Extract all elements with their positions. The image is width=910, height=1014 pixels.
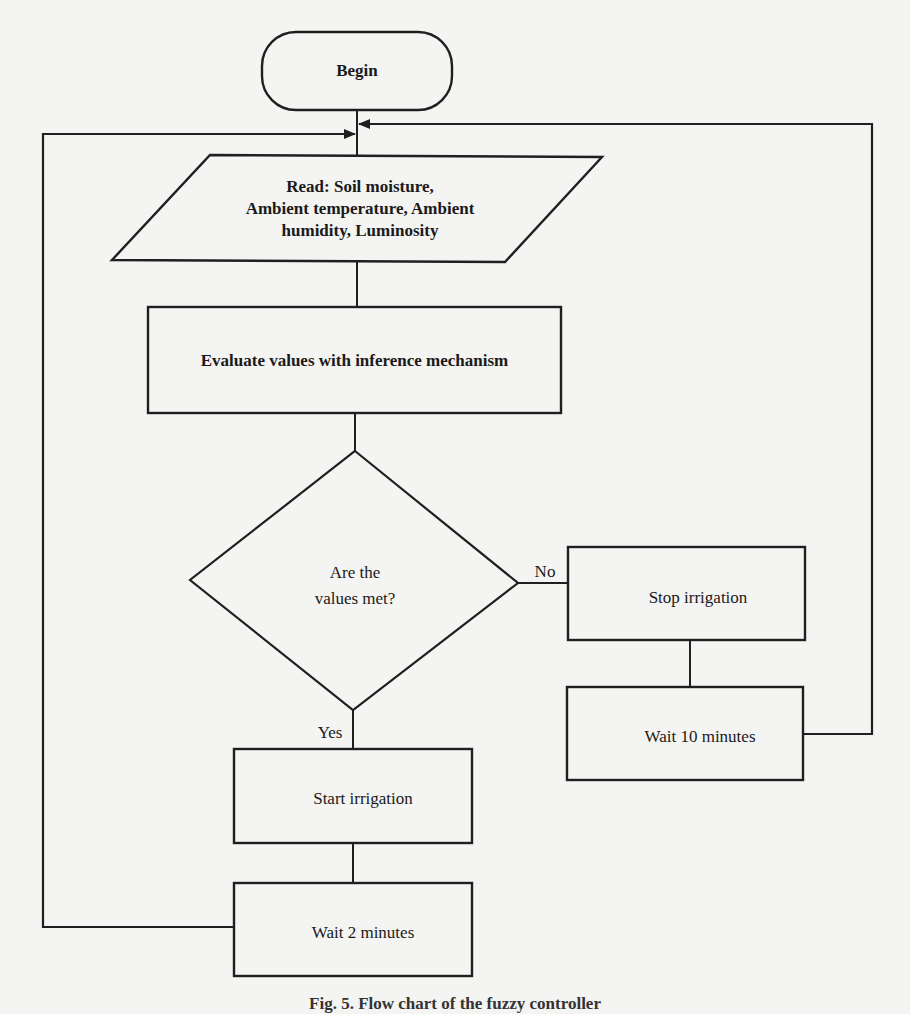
read-label: Read: Soil moisture, Ambient temperature… xyxy=(160,176,560,242)
yes-edge-label: Yes xyxy=(310,722,350,743)
decision-label: Are the values met? xyxy=(250,560,460,612)
no-edge-label: No xyxy=(527,561,563,582)
wait-2-label: Wait 2 minutes xyxy=(234,922,492,943)
read-label-line-2: Ambient temperature, Ambient xyxy=(160,198,560,220)
stop-irrigation-label: Stop irrigation xyxy=(568,587,828,608)
wait-10-label: Wait 10 minutes xyxy=(567,726,833,747)
read-label-line-3: humidity, Luminosity xyxy=(160,220,560,242)
read-label-line-1: Read: Soil moisture, xyxy=(160,176,560,198)
decision-label-line-2: values met? xyxy=(250,586,460,612)
start-irrigation-label: Start irrigation xyxy=(234,788,492,809)
begin-label: Begin xyxy=(262,60,452,81)
decision-label-line-1: Are the xyxy=(250,560,460,586)
figure-caption: Fig. 5. Flow chart of the fuzzy controll… xyxy=(0,994,910,1014)
evaluate-label: Evaluate values with inference mechanism xyxy=(148,350,561,371)
